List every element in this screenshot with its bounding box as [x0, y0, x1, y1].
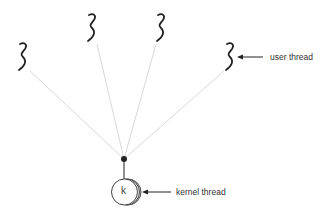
kernel-thread-label: kernel thread: [176, 187, 226, 197]
user-thread-icon-3: [157, 14, 164, 41]
user-thread-icon-2: [88, 14, 95, 41]
connector-line-3: [124, 44, 156, 159]
user-thread-label: user thread: [270, 52, 313, 62]
kernel-thread-arrow: [142, 190, 171, 195]
connector-line-4: [124, 71, 224, 159]
user-thread-icon-1: [19, 43, 26, 70]
connector-lines: [30, 44, 224, 159]
kernel-symbol: k: [121, 185, 126, 196]
diagram-canvas: [0, 0, 330, 216]
user-thread-icon-4: [226, 43, 233, 70]
connector-line-2: [97, 44, 124, 159]
connector-line-1: [30, 71, 124, 159]
user-thread-arrow: [237, 55, 263, 60]
kernel-thread-icon: [112, 179, 142, 205]
